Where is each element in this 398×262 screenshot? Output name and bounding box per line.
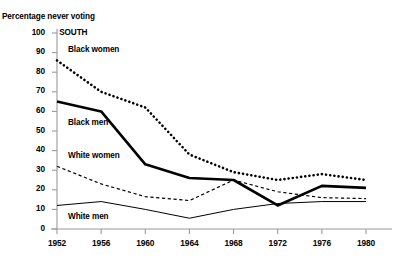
series-line-white-men	[57, 202, 366, 219]
axis-tick-marks	[52, 33, 366, 234]
axis-lines	[51, 29, 392, 229]
plot-area	[0, 0, 398, 262]
chart-container: Percentage never voting SOUTH 0102030405…	[0, 0, 398, 262]
series-lines	[57, 60, 366, 218]
series-line-black-women	[57, 60, 366, 180]
series-line-white-women	[57, 166, 366, 200]
series-line-black-men	[57, 102, 366, 206]
